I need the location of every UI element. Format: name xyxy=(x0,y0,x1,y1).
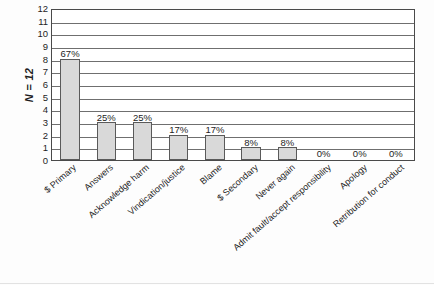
y-tick-2: 2 xyxy=(28,131,48,141)
bar-value-label-10: 0% xyxy=(389,149,403,159)
y-tick-8: 8 xyxy=(28,55,48,65)
bar-value-label-6: 8% xyxy=(244,138,258,148)
bar-6[interactable]: 8% xyxy=(241,147,261,160)
plot-area: 67%25%25%17%17%8%8%0%0%0% xyxy=(51,9,415,161)
bar-5[interactable]: 17% xyxy=(205,135,225,160)
x-tick-label-5: Blame xyxy=(199,163,225,187)
bar-value-label-7: 8% xyxy=(280,138,294,148)
bar-slot-1: 67% xyxy=(52,10,88,160)
bar-slot-8: 0% xyxy=(305,10,341,160)
bar-slot-6: 8% xyxy=(233,10,269,160)
x-tick-label-10: Retribution for conduct xyxy=(331,163,406,230)
bar-1[interactable]: 67% xyxy=(60,59,80,160)
y-tick-11: 11 xyxy=(28,17,48,27)
bar-slot-3: 25% xyxy=(124,10,160,160)
bar-4[interactable]: 17% xyxy=(169,135,189,160)
y-tick-6: 6 xyxy=(28,80,48,90)
x-tick-label-2: Answers xyxy=(83,163,116,193)
bar-slot-4: 17% xyxy=(161,10,197,160)
y-tick-7: 7 xyxy=(28,68,48,78)
bar-slot-9: 0% xyxy=(342,10,378,160)
bar-value-label-5: 17% xyxy=(205,125,224,135)
y-tick-0: 0 xyxy=(28,156,48,166)
bar-value-label-4: 17% xyxy=(169,125,188,135)
bar-2[interactable]: 25% xyxy=(97,122,117,160)
x-tick-label-9: Apology xyxy=(339,163,370,192)
bar-slot-7: 8% xyxy=(269,10,305,160)
bar-series: 67%25%25%17%17%8%8%0%0%0% xyxy=(52,10,414,160)
bar-value-label-2: 25% xyxy=(97,113,116,123)
y-tick-9: 9 xyxy=(28,42,48,52)
x-axis-category-labels: $ PrimaryAnswersAcknowledge harmVindicat… xyxy=(51,163,415,281)
y-tick-3: 3 xyxy=(28,118,48,128)
x-tick-label-1: $ Primary xyxy=(43,163,79,196)
bar-3[interactable]: 25% xyxy=(133,122,153,160)
y-tick-1: 1 xyxy=(28,144,48,154)
bar-slot-10: 0% xyxy=(378,10,414,160)
y-tick-10: 10 xyxy=(28,30,48,40)
y-tick-12: 12 xyxy=(28,4,48,14)
bar-value-label-8: 0% xyxy=(317,149,331,159)
bar-slot-5: 17% xyxy=(197,10,233,160)
bar-value-label-1: 67% xyxy=(61,49,80,59)
bar-slot-2: 25% xyxy=(88,10,124,160)
scan-edge-line xyxy=(0,283,434,284)
y-tick-4: 4 xyxy=(28,106,48,116)
bar-value-label-3: 25% xyxy=(133,113,152,123)
y-tick-5: 5 xyxy=(28,93,48,103)
bar-value-label-9: 0% xyxy=(353,149,367,159)
chart-canvas: N = 12 1211109876543210 67%25%25%17%17%8… xyxy=(0,0,434,285)
y-axis-tick-labels: 1211109876543210 xyxy=(28,9,48,161)
bar-7[interactable]: 8% xyxy=(278,147,298,160)
